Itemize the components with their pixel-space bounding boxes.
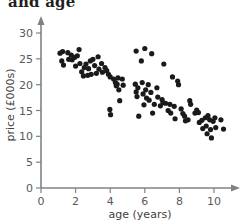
data-point xyxy=(148,90,153,95)
data-point xyxy=(204,131,209,136)
data-point xyxy=(176,82,181,87)
data-point xyxy=(134,48,139,53)
data-point xyxy=(185,117,190,122)
data-point xyxy=(139,58,144,63)
y-tick-label: 15 xyxy=(19,105,33,118)
data-point xyxy=(108,112,113,117)
data-point xyxy=(86,66,91,71)
data-point xyxy=(154,85,159,90)
data-point xyxy=(170,74,175,79)
y-tick-label: 25 xyxy=(19,53,33,66)
data-point xyxy=(73,63,78,68)
data-point xyxy=(99,61,104,66)
y-axis-title: price (£000s) xyxy=(4,68,17,141)
data-point xyxy=(168,110,173,115)
data-point xyxy=(140,80,145,85)
y-tick-labels: 051015202530 xyxy=(19,27,33,195)
x-tick-labels: 0246810 xyxy=(38,195,222,208)
data-point xyxy=(90,57,95,62)
x-axis-title: age (years) xyxy=(109,208,172,221)
y-axis-arrow-icon xyxy=(37,16,44,25)
data-point xyxy=(218,117,223,122)
data-point xyxy=(117,98,122,103)
data-point xyxy=(143,87,148,92)
data-point xyxy=(136,114,141,119)
data-point xyxy=(83,61,88,66)
data-point xyxy=(146,82,151,87)
data-point xyxy=(76,47,81,52)
data-point xyxy=(120,76,125,81)
data-point xyxy=(209,135,214,140)
data-point xyxy=(121,83,126,88)
data-point xyxy=(61,62,66,67)
x-axis-arrow-icon xyxy=(231,184,240,191)
data-point xyxy=(161,61,166,66)
x-tick-label: 6 xyxy=(141,195,148,208)
x-axis: 0246810 xyxy=(38,184,241,208)
x-tick-label: 4 xyxy=(107,195,114,208)
data-point xyxy=(116,87,121,92)
data-point xyxy=(188,102,193,107)
data-point xyxy=(89,72,94,77)
y-tick-label: 5 xyxy=(26,156,33,169)
data-point xyxy=(213,125,218,130)
data-points-layer xyxy=(57,46,226,141)
data-point xyxy=(60,49,65,54)
data-point xyxy=(95,54,100,59)
data-point xyxy=(152,102,157,107)
y-tick-label: 0 xyxy=(26,182,33,195)
data-point xyxy=(208,127,213,132)
data-point xyxy=(149,51,154,56)
x-tick-label: 10 xyxy=(207,195,221,208)
data-point xyxy=(77,61,82,66)
plot-area: 051015202530 0246810 age (years) price (… xyxy=(0,0,250,224)
data-point xyxy=(75,53,80,58)
data-point xyxy=(221,127,226,132)
data-point xyxy=(212,115,217,120)
y-tick-label: 20 xyxy=(19,79,33,92)
data-point xyxy=(196,110,201,115)
data-point xyxy=(179,106,184,111)
x-tick-label: 2 xyxy=(72,195,79,208)
data-point xyxy=(147,98,152,103)
data-point xyxy=(135,85,140,90)
x-tick-label: 0 xyxy=(38,195,45,208)
x-tick-label: 8 xyxy=(176,195,183,208)
data-point xyxy=(150,110,155,115)
data-point xyxy=(155,94,160,99)
data-point xyxy=(141,102,146,107)
data-point xyxy=(204,123,209,128)
data-point xyxy=(172,104,177,109)
data-point xyxy=(134,94,139,99)
y-tick-label: 10 xyxy=(19,130,33,143)
data-point xyxy=(92,63,97,68)
y-tick-label: 30 xyxy=(19,27,33,40)
scatter-plot-figure: and age 051015202530 0246810 age (years)… xyxy=(0,0,250,224)
data-point xyxy=(115,75,120,80)
data-point xyxy=(107,107,112,112)
data-point xyxy=(142,46,147,51)
data-point xyxy=(163,101,168,106)
data-point xyxy=(115,82,120,87)
y-axis: 051015202530 xyxy=(19,16,45,195)
data-point xyxy=(172,116,177,121)
